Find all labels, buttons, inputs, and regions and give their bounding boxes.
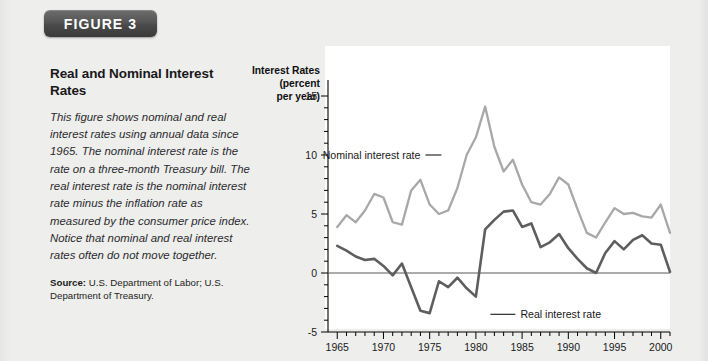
svg-text:-5: -5 [308, 326, 317, 338]
x-axis-ticks: 19651970197519801985199019952000 [326, 332, 673, 353]
svg-text:10: 10 [305, 149, 317, 161]
figure-source-note: Source: U.S. Department of Labor; U.S. D… [50, 276, 250, 304]
svg-text:0: 0 [311, 267, 317, 279]
svg-text:Real interest rate: Real interest rate [520, 308, 601, 320]
figure-caption-text: This figure shows nominal and real inter… [50, 109, 250, 265]
svg-text:1965: 1965 [326, 341, 350, 353]
svg-text:Interest Rates: Interest Rates [252, 65, 320, 76]
svg-text:1980: 1980 [464, 341, 488, 353]
y-axis-ticks: -5051015 [305, 90, 328, 338]
interest-rates-chart: Interest Rates(percentper year) -5051015… [252, 40, 698, 350]
svg-text:(percent: (percent [279, 78, 320, 89]
svg-text:1975: 1975 [418, 341, 442, 353]
figure-caption-block: Real and Nominal Interest Rates This fig… [50, 66, 250, 303]
source-label: Source: [50, 277, 86, 288]
figure-number-label: FIGURE 3 [64, 16, 137, 32]
svg-text:1990: 1990 [557, 341, 581, 353]
svg-text:1970: 1970 [372, 341, 396, 353]
figure-number-badge: FIGURE 3 [44, 10, 157, 37]
svg-text:1985: 1985 [510, 341, 534, 353]
svg-text:Nominal interest rate: Nominal interest rate [323, 149, 421, 161]
figure-container: FIGURE 3 Real and Nominal Interest Rates… [0, 0, 708, 361]
svg-text:2000: 2000 [649, 341, 673, 353]
svg-text:5: 5 [311, 208, 317, 220]
real-interest-rate-line [337, 210, 670, 313]
svg-text:1995: 1995 [603, 341, 627, 353]
nominal-interest-rate-line [337, 107, 670, 238]
chart-svg: Interest Rates(percentper year) -5051015… [252, 40, 698, 350]
figure-title: Real and Nominal Interest Rates [50, 66, 250, 100]
svg-text:15: 15 [305, 90, 317, 102]
